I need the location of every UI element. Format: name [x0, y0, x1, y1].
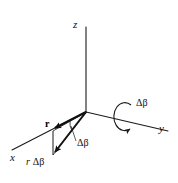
arc-displacement-delta-beta: Δβ — [33, 156, 45, 167]
vector-diagram-figure: z y x r r Δβ Δβ Δβ — [0, 0, 178, 183]
x-axis-label: x — [10, 152, 15, 163]
arc-displacement-r: r — [26, 156, 30, 167]
rotation-delta-beta-label: Δβ — [136, 98, 148, 108]
vector-r-label: r — [45, 119, 49, 129]
rotation-arrow-group — [114, 103, 131, 131]
y-axis-label: y — [159, 123, 164, 134]
angle-delta-beta-label: Δβ — [77, 138, 89, 148]
z-axis-label: z — [73, 19, 77, 30]
arc-displacement-label: r Δβ — [26, 157, 44, 167]
displacement-triangle — [53, 112, 86, 155]
axis-group — [12, 27, 168, 150]
triangle-lower-edge — [53, 112, 86, 155]
y-axis-line — [86, 112, 168, 131]
rotation-arrow-arc — [114, 103, 131, 131]
